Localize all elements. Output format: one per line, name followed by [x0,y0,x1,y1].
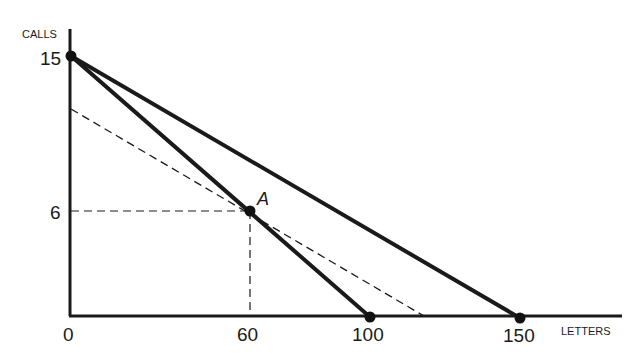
x-axis-label: LETTERS [561,325,611,337]
y-axis-label: CALLS [22,28,57,40]
x-tick-150: 150 [503,325,535,346]
point-0-15 [66,51,77,62]
x-tick-0: 0 [63,324,74,345]
point-A-label: A [256,189,269,209]
x-tick-100: 100 [352,324,384,345]
budget-constraint-diagram: CALLS LETTERS 15 6 0 60 100 150 A [0,0,641,363]
point-A [245,206,256,217]
y-tick-6: 6 [50,202,61,223]
budget-line-steep [71,56,370,317]
x-tick-60: 60 [237,324,258,345]
budget-line-flat [71,56,520,318]
y-tick-15: 15 [40,48,61,69]
point-100-0 [365,312,376,323]
point-150-0 [515,313,526,324]
